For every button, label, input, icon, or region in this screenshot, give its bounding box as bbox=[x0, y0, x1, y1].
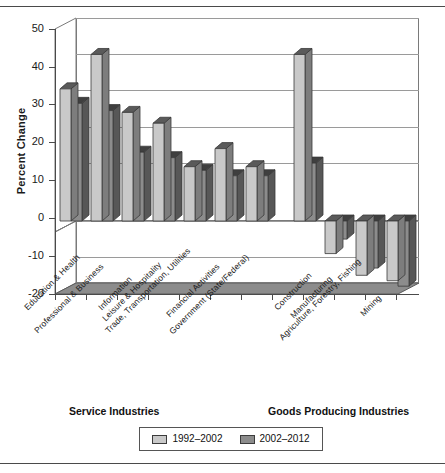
bar-mining-series-1 bbox=[387, 215, 405, 281]
bar-face bbox=[387, 221, 398, 281]
bar-face bbox=[325, 221, 336, 254]
bar-financial-activities-series-1 bbox=[215, 143, 233, 221]
bar-face bbox=[91, 54, 102, 221]
bar-side bbox=[268, 170, 275, 221]
bar-trade-transportation-utilities-series-1 bbox=[184, 161, 202, 221]
page-rule-bottom bbox=[0, 463, 445, 464]
chart-legend: 1992–2002 2002–2012 bbox=[139, 427, 323, 451]
bar-face bbox=[153, 123, 164, 221]
bar-education-health-series-1 bbox=[60, 83, 78, 221]
bar-leisure-hospitality-series-1 bbox=[153, 117, 171, 221]
legend-item-1992-2002: 1992–2002 bbox=[152, 434, 222, 444]
legend-label-1992-2002: 1992–2002 bbox=[172, 434, 222, 444]
bar-side bbox=[367, 215, 374, 275]
group-caption-goods-producing-industries: Goods Producing Industries bbox=[268, 405, 409, 417]
bar-side bbox=[195, 161, 202, 221]
legend-swatch-1992-2002 bbox=[152, 435, 167, 444]
bar-face bbox=[122, 112, 133, 221]
bar-chart: 50 40 30 20 10 0 -10 -20 Percent Change … bbox=[0, 10, 445, 300]
bar-side bbox=[409, 215, 416, 286]
bar-side bbox=[336, 215, 343, 254]
bar-face bbox=[215, 149, 226, 221]
bar-side bbox=[316, 157, 323, 221]
legend-item-2002-2012: 2002–2012 bbox=[240, 434, 310, 444]
bar-side bbox=[398, 215, 405, 281]
bar-side bbox=[305, 48, 312, 221]
bar-side bbox=[226, 143, 233, 221]
bar-side bbox=[378, 215, 385, 268]
bar-manufacturing-series-1 bbox=[325, 215, 343, 254]
bar-face bbox=[60, 89, 71, 221]
bar-side bbox=[71, 83, 78, 221]
bar-side bbox=[257, 161, 264, 221]
bar-side bbox=[144, 146, 151, 221]
bar-professional-business-series-1 bbox=[91, 48, 109, 221]
bar-side bbox=[133, 106, 140, 221]
legend-swatch-2002-2012 bbox=[240, 435, 255, 444]
bar-side bbox=[175, 152, 182, 221]
bar-series-group bbox=[0, 10, 445, 300]
bar-side bbox=[206, 164, 213, 221]
bar-side bbox=[82, 97, 89, 221]
bar-face bbox=[294, 54, 305, 221]
bar-side bbox=[113, 105, 120, 221]
group-caption-service-industries: Service Industries bbox=[69, 405, 159, 417]
bar-face bbox=[184, 167, 195, 221]
bar-face bbox=[246, 167, 257, 221]
bar-construction-series-1 bbox=[294, 48, 312, 221]
bar-government-state-federal--series-1 bbox=[246, 161, 264, 221]
bar-side bbox=[164, 117, 171, 221]
chart-page: 50 40 30 20 10 0 -10 -20 Percent Change … bbox=[0, 0, 445, 473]
bar-side bbox=[102, 48, 109, 221]
legend-label-2002-2012: 2002–2012 bbox=[260, 434, 310, 444]
page-rule-top bbox=[0, 6, 445, 7]
bar-information-series-1 bbox=[122, 106, 140, 221]
bar-side bbox=[237, 170, 244, 221]
